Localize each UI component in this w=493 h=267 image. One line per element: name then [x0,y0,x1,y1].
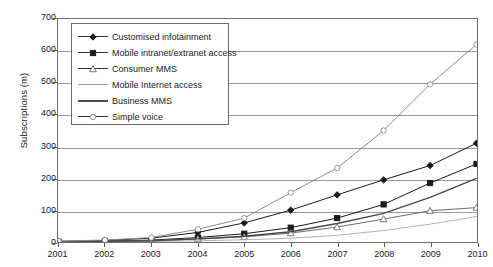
data-point-marker [474,161,477,166]
x-tick-label: 2004 [176,249,220,259]
x-tick-mark [291,243,292,247]
legend-marker-open-circle-icon [78,110,108,124]
legend-item-label: Mobile intranet/extranet access [108,48,237,58]
data-point-marker [335,216,340,221]
data-point-marker [90,34,96,40]
x-tick-label: 2009 [409,249,453,259]
data-point-marker [90,114,95,119]
x-tick-mark [58,243,59,247]
y-tick-label: 0 [26,237,56,247]
chart-figure: Subscriptions (m) 0100200300400500600700… [0,0,493,267]
data-point-marker [473,204,477,210]
x-tick-mark [198,243,199,247]
data-point-marker [288,190,293,195]
y-tick-mark [52,243,57,244]
legend-item-label: Simple voice [108,112,163,122]
legend-item[interactable]: Business MMS [72,93,228,109]
series-line [58,178,476,241]
data-point-marker [242,215,247,220]
data-point-marker [381,128,386,133]
series-consumer-mms [58,204,477,242]
data-point-marker [427,82,432,87]
x-tick-mark [104,243,105,247]
legend-item[interactable]: Consumer MMS [72,61,228,77]
legend-marker-filled-square-icon [78,46,108,60]
x-tick-mark [431,243,432,247]
legend-marker-thin-line-icon [78,78,108,92]
y-tick-label: 600 [26,44,56,54]
x-tick-mark [338,243,339,247]
data-point-marker [474,42,477,47]
x-tick-label: 2007 [316,249,360,259]
y-tick-label: 300 [26,141,56,151]
y-tick-label: 700 [26,12,56,22]
data-point-marker [427,162,433,168]
series-line [58,217,476,242]
data-point-marker [195,227,200,232]
legend-item[interactable]: Mobile Internet access [72,77,228,93]
x-tick-label: 2010 [456,249,493,259]
legend-item-label: Consumer MMS [108,64,177,74]
legend-marker-filled-diamond-icon [78,30,108,44]
series-line [58,208,476,242]
data-point-marker [427,180,432,185]
data-point-marker [334,165,339,170]
data-point-marker [381,202,386,207]
x-tick-label: 2002 [82,249,126,259]
legend-marker-open-triangle-icon [78,62,108,76]
x-tick-label: 2003 [129,249,173,259]
legend-marker-thick-line-icon [78,94,108,108]
x-tick-label: 2001 [36,249,80,259]
y-tick-label: 200 [26,173,56,183]
legend-item-label: Business MMS [108,96,172,106]
legend-item[interactable]: Mobile intranet/extranet access [72,45,228,61]
x-tick-mark [151,243,152,247]
data-point-marker [380,177,386,183]
series-mobile-intranet-extranet-access [58,161,477,242]
legend-item-label: Mobile Internet access [108,80,202,90]
y-tick-label: 100 [26,205,56,215]
data-point-marker [90,66,97,72]
legend-item-label: Customised infotainment [108,32,211,42]
data-point-marker [149,235,154,240]
data-point-marker [102,237,107,242]
x-tick-mark [384,243,385,247]
legend-item[interactable]: Customised infotainment [72,29,228,45]
x-tick-mark [244,243,245,247]
legend-item[interactable]: Simple voice [72,109,228,125]
x-tick-mark [478,243,479,247]
x-tick-label: 2005 [222,249,266,259]
data-point-marker [90,50,95,55]
data-point-marker [473,140,477,146]
series-business-mms [58,178,476,241]
series-mobile-internet-access [58,217,476,242]
chart-legend: Customised infotainmentMobile intranet/e… [71,23,229,125]
y-tick-label: 400 [26,108,56,118]
data-point-marker [288,207,294,213]
x-tick-label: 2006 [269,249,313,259]
data-point-marker [58,238,61,242]
y-tick-label: 500 [26,76,56,86]
data-point-marker [334,192,340,198]
x-tick-label: 2008 [362,249,406,259]
